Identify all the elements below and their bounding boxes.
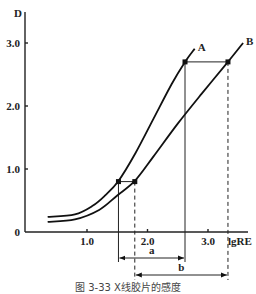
x-axis-label: lgRE [228, 235, 252, 247]
point-a [183, 59, 188, 64]
y-tick-label: 2.0 [6, 100, 20, 112]
dimension-arrows: ab [119, 244, 227, 275]
ticks: 1.02.03.001.02.03.0 [6, 37, 215, 247]
curve-b [48, 43, 243, 222]
x-tick-label: 1.0 [80, 235, 94, 247]
curve-label-b: B [246, 35, 254, 47]
curve-label-a: A [198, 41, 206, 53]
point-a [116, 179, 121, 184]
y-tick-label: 1.0 [6, 163, 20, 175]
guide-lines [118, 62, 228, 280]
curves: AB [48, 35, 254, 222]
y-tick-label: 0 [15, 226, 21, 238]
y-axis-label: D [14, 7, 22, 19]
point-b [225, 59, 230, 64]
chart: D lgRE 1.02.03.001.02.03.0 AB ab 图 3-33 … [0, 0, 256, 294]
dimension-label-a: a [149, 244, 155, 256]
x-tick-label: 3.0 [201, 235, 215, 247]
y-tick-label: 3.0 [6, 37, 20, 49]
point-b [132, 179, 137, 184]
dimension-label-b: b [178, 261, 184, 273]
axes [25, 12, 248, 232]
figure-caption: 图 3-33 X线胶片的感度 [75, 281, 181, 293]
marked-points [116, 59, 231, 184]
